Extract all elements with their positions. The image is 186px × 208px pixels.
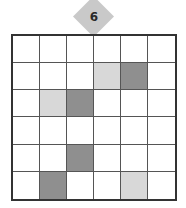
grid-cell-r0-c2[interactable] [67, 36, 94, 63]
grid-cell-r5-c4[interactable] [121, 172, 148, 199]
grid-cell-r4-c1[interactable] [40, 145, 67, 172]
grid-cell-r1-c0[interactable] [13, 63, 40, 90]
grid-cell-r4-c0[interactable] [13, 145, 40, 172]
grid-cell-r1-c2[interactable] [67, 63, 94, 90]
grid-cell-r4-c4[interactable] [121, 145, 148, 172]
grid-cell-r1-c3[interactable] [94, 63, 121, 90]
grid-cell-r0-c5[interactable] [148, 36, 175, 63]
grid-cell-r0-c4[interactable] [121, 36, 148, 63]
grid-cell-r3-c2[interactable] [67, 117, 94, 144]
grid-cell-r5-c1[interactable] [40, 172, 67, 199]
grid-cell-r3-c1[interactable] [40, 117, 67, 144]
grid-cell-r2-c2[interactable] [67, 90, 94, 117]
grid-cell-r4-c5[interactable] [148, 145, 175, 172]
grid-cell-r4-c2[interactable] [67, 145, 94, 172]
grid-cell-r1-c4[interactable] [121, 63, 148, 90]
grid-cell-r3-c4[interactable] [121, 117, 148, 144]
grid-cell-r2-c5[interactable] [148, 90, 175, 117]
grid-cell-r5-c2[interactable] [67, 172, 94, 199]
puzzle-grid [11, 34, 177, 201]
grid-cell-r2-c0[interactable] [13, 90, 40, 117]
grid-cell-r3-c5[interactable] [148, 117, 175, 144]
grid-cell-r0-c3[interactable] [94, 36, 121, 63]
grid-cell-r5-c0[interactable] [13, 172, 40, 199]
grid-cell-r2-c1[interactable] [40, 90, 67, 117]
grid-cell-r2-c3[interactable] [94, 90, 121, 117]
grid-cell-r0-c0[interactable] [13, 36, 40, 63]
grid-cell-r0-c1[interactable] [40, 36, 67, 63]
level-number: 6 [76, 4, 112, 30]
grid-cell-r5-c3[interactable] [94, 172, 121, 199]
grid-cell-r4-c3[interactable] [94, 145, 121, 172]
grid-cell-r2-c4[interactable] [121, 90, 148, 117]
grid-cell-r5-c5[interactable] [148, 172, 175, 199]
grid-cell-r1-c1[interactable] [40, 63, 67, 90]
grid-cell-r3-c0[interactable] [13, 117, 40, 144]
grid-cell-r3-c3[interactable] [94, 117, 121, 144]
grid-cell-r1-c5[interactable] [148, 63, 175, 90]
